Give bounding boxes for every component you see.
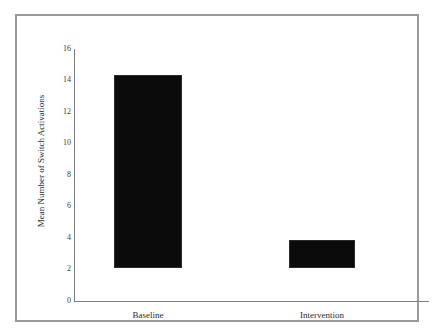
y-tick-8: 8 — [49, 171, 71, 179]
y-tick-14: 14 — [49, 76, 71, 84]
y-tick-2: 2 — [49, 265, 71, 273]
x-tick-label-baseline: Baseline — [108, 310, 188, 320]
y-axis-line — [74, 49, 75, 301]
y-tick-16: 16 — [49, 45, 71, 53]
x-tick-label-intervention: Intervention — [277, 310, 367, 320]
chart-frame: Mean Number of Switch Activations 16 14 … — [15, 14, 419, 322]
y-axis-tick-labels: 16 14 12 10 8 6 4 2 0 — [47, 16, 71, 336]
bar-intervention — [289, 240, 355, 268]
y-tick-4: 4 — [49, 234, 71, 242]
y-axis-title: Mean Number of Switch Activations — [36, 61, 46, 261]
bar-baseline — [114, 75, 182, 268]
x-axis-line — [74, 301, 429, 302]
y-tick-6: 6 — [49, 202, 71, 210]
y-tick-10: 10 — [49, 139, 71, 147]
y-tick-12: 12 — [49, 108, 71, 116]
y-tick-0: 0 — [49, 297, 71, 305]
figure: Mean Number of Switch Activations 16 14 … — [0, 0, 435, 336]
